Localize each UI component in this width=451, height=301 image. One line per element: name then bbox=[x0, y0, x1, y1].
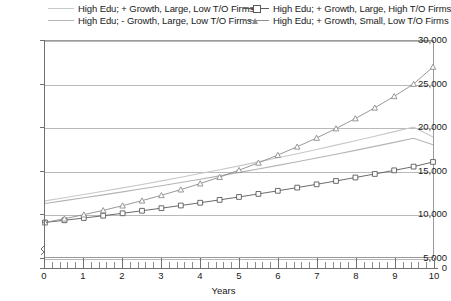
x-axis-tick-mark bbox=[200, 258, 201, 268]
chart-plot-lines bbox=[45, 41, 433, 257]
x-axis-minor-tick-mark bbox=[153, 262, 154, 268]
data-point-marker bbox=[198, 200, 203, 205]
data-point-marker bbox=[431, 160, 436, 165]
series-line bbox=[45, 127, 433, 201]
x-axis-minor-tick-mark bbox=[325, 262, 326, 268]
x-axis-line bbox=[40, 268, 438, 269]
data-point-marker bbox=[430, 64, 436, 69]
x-axis-minor-tick-mark bbox=[130, 262, 131, 268]
legend-key-triangle-marker-icon bbox=[243, 15, 269, 27]
data-point-marker bbox=[101, 213, 106, 218]
x-axis-minor-tick-mark bbox=[52, 262, 53, 268]
x-axis-minor-tick-mark bbox=[138, 262, 139, 268]
legend-item-1[interactable]: High Edu; - Growth, Large, Low T/O Firms bbox=[48, 15, 252, 27]
x-axis-minor-tick-mark bbox=[75, 262, 76, 268]
legend-label: High Edu; + Growth, Small, Low T/O Firms bbox=[273, 15, 449, 27]
legend-item-0[interactable]: High Edu; + Growth, Large, Low T/O Firms bbox=[48, 3, 254, 15]
x-axis-minor-tick-mark bbox=[372, 262, 373, 268]
x-axis-minor-tick-mark bbox=[262, 262, 263, 268]
x-axis-tick-mark bbox=[161, 258, 162, 268]
series-0 bbox=[45, 127, 433, 201]
data-point-marker bbox=[314, 135, 320, 140]
y-axis-tick-mark bbox=[40, 171, 45, 172]
x-axis-tick-mark bbox=[239, 258, 240, 268]
legend-key-square-marker-icon bbox=[243, 3, 269, 15]
x-axis-tick-mark bbox=[122, 258, 123, 268]
data-point-marker bbox=[333, 126, 339, 131]
x-axis-minor-tick-mark bbox=[216, 262, 217, 268]
x-axis-minor-tick-mark bbox=[403, 262, 404, 268]
x-axis-tick-label: 9 bbox=[383, 270, 407, 281]
x-axis-minor-tick-mark bbox=[192, 262, 193, 268]
data-point-marker bbox=[295, 185, 300, 190]
x-axis-minor-tick-mark bbox=[184, 262, 185, 268]
y-axis-break-icon bbox=[40, 244, 49, 258]
x-axis-tick-label: 1 bbox=[71, 270, 95, 281]
y-axis-tick-label: 25,000 bbox=[407, 79, 447, 89]
x-axis-minor-tick-mark bbox=[231, 262, 232, 268]
data-point-marker bbox=[275, 188, 280, 193]
data-point-marker bbox=[372, 105, 378, 110]
x-axis-minor-tick-mark bbox=[387, 262, 388, 268]
x-axis-minor-tick-mark bbox=[208, 262, 209, 268]
x-axis-tick-label: 0 bbox=[32, 270, 56, 281]
x-axis-minor-tick-mark bbox=[309, 262, 310, 268]
x-axis-minor-tick-mark bbox=[145, 262, 146, 268]
x-axis-minor-tick-mark bbox=[418, 262, 419, 268]
x-axis-minor-tick-mark bbox=[169, 262, 170, 268]
y-axis-tick-label: 10,000 bbox=[407, 209, 447, 219]
data-point-marker bbox=[217, 198, 222, 203]
x-axis-tick-label: 7 bbox=[305, 270, 329, 281]
y-axis-tick-mark bbox=[40, 127, 45, 128]
x-axis-minor-tick-mark bbox=[364, 262, 365, 268]
x-axis-tick-label: 2 bbox=[110, 270, 134, 281]
data-point-marker bbox=[140, 208, 145, 213]
x-axis-tick-label: 5 bbox=[227, 270, 251, 281]
plot-area bbox=[44, 40, 434, 258]
x-axis-tick-mark bbox=[278, 258, 279, 268]
data-point-marker bbox=[178, 203, 183, 208]
x-axis-minor-tick-mark bbox=[255, 262, 256, 268]
chart-legend: High Edu; + Growth, Large, Low T/O Firms… bbox=[0, 2, 447, 28]
legend-key-line-icon bbox=[48, 15, 74, 27]
y-axis-tick-mark bbox=[40, 40, 45, 41]
x-axis-tick-mark bbox=[356, 258, 357, 268]
x-axis-tick-label: 4 bbox=[188, 270, 212, 281]
x-axis-minor-tick-mark bbox=[426, 262, 427, 268]
y-axis-tick-label: 30,000 bbox=[407, 35, 447, 45]
x-axis-minor-tick-mark bbox=[91, 262, 92, 268]
x-axis-minor-tick-mark bbox=[379, 262, 380, 268]
legend-item-3[interactable]: High Edu; + Growth, Small, Low T/O Firms bbox=[243, 15, 449, 27]
x-axis-minor-tick-mark bbox=[247, 262, 248, 268]
x-axis-minor-tick-mark bbox=[99, 262, 100, 268]
x-axis-tick-mark bbox=[83, 258, 84, 268]
x-axis-minor-tick-mark bbox=[114, 262, 115, 268]
data-point-marker bbox=[314, 182, 319, 187]
legend-item-2[interactable]: High Edu; + Growth, Large, High T/O Firm… bbox=[243, 3, 451, 15]
data-point-marker bbox=[391, 94, 397, 99]
y-axis-tick-label: 15,000 bbox=[407, 166, 447, 176]
x-axis-minor-tick-mark bbox=[270, 262, 271, 268]
x-axis-minor-tick-mark bbox=[411, 262, 412, 268]
x-axis-tick-mark bbox=[395, 258, 396, 268]
data-point-marker bbox=[256, 192, 261, 197]
data-point-marker bbox=[236, 167, 242, 172]
legend-label: High Edu; + Growth, Large, High T/O Firm… bbox=[273, 3, 451, 15]
data-point-marker bbox=[392, 168, 397, 173]
data-point-marker bbox=[372, 172, 377, 177]
data-point-marker bbox=[275, 152, 281, 157]
data-point-marker bbox=[120, 211, 125, 216]
x-axis-tick-mark bbox=[434, 258, 435, 268]
x-axis-minor-tick-mark bbox=[348, 262, 349, 268]
x-axis-minor-tick-mark bbox=[286, 262, 287, 268]
x-axis-tick-label: 8 bbox=[344, 270, 368, 281]
data-point-marker bbox=[334, 179, 339, 184]
x-axis-minor-tick-mark bbox=[67, 262, 68, 268]
data-point-marker bbox=[294, 144, 300, 149]
legend-label: High Edu; + Growth, Large, Low T/O Firms bbox=[78, 3, 254, 15]
x-axis-minor-tick-mark bbox=[177, 262, 178, 268]
x-axis-minor-tick-mark bbox=[333, 262, 334, 268]
x-axis-title: Years bbox=[0, 285, 447, 296]
x-axis-minor-tick-mark bbox=[294, 262, 295, 268]
